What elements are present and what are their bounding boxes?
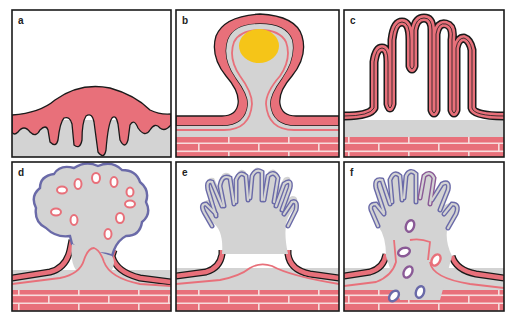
panel-c: c [344,10,504,159]
panel-b: b [176,10,339,159]
panel-d: d [12,162,171,312]
panel-a: a [12,10,171,160]
panel-label-a: a [18,15,24,26]
panel-label-c: c [350,15,356,26]
panel-label-e: e [182,167,188,178]
figure: a b c [0,0,514,321]
panel-label-b: b [182,15,188,26]
panel-label-d: d [18,167,24,178]
panel-e: e [176,162,339,312]
panel-f: f [344,162,504,312]
